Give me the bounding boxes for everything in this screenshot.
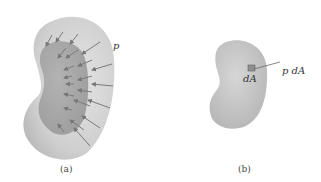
area-label: dA: [243, 73, 257, 84]
caption-b: (b): [238, 164, 251, 174]
force-label: p dA: [282, 65, 305, 76]
caption-a: (a): [60, 164, 72, 174]
figure-a: p (a): [23, 17, 120, 174]
diagram-canvas: p (a) dA p dA (b): [0, 0, 321, 182]
area-element: [248, 65, 255, 71]
kidney-body: [210, 40, 268, 128]
figure-b: dA p dA (b): [210, 40, 306, 174]
pressure-label: p: [113, 40, 120, 51]
kidney-body-inner: [39, 41, 89, 134]
